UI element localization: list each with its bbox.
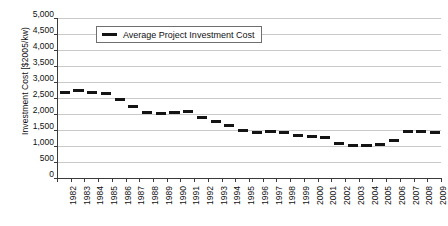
- y-tick-mark: [54, 50, 58, 51]
- x-tick-mark: [180, 178, 181, 182]
- y-tick-mark: [54, 18, 58, 19]
- data-marker: [142, 111, 152, 114]
- data-marker: [307, 135, 317, 138]
- x-tick-mark: [276, 178, 277, 182]
- x-tick-label: 1989: [164, 186, 174, 205]
- data-marker: [348, 144, 358, 147]
- x-tick-label: 2009: [438, 186, 448, 205]
- y-tick-mark: [54, 146, 58, 147]
- x-tick-mark: [57, 178, 58, 182]
- y-tick-label: 5,000: [33, 9, 54, 19]
- x-tick-label: 2005: [383, 186, 393, 205]
- data-marker: [293, 134, 303, 137]
- y-tick-label: 4,500: [33, 25, 54, 35]
- legend-line-swatch-icon: [102, 33, 117, 36]
- y-tick-label: 3,000: [33, 73, 54, 83]
- x-tick-label: 1991: [191, 186, 201, 205]
- x-tick-mark: [153, 178, 154, 182]
- y-tick-mark: [54, 162, 58, 163]
- x-tick-mark: [304, 178, 305, 182]
- gridline: [58, 130, 441, 131]
- x-tick-label: 1984: [95, 186, 105, 205]
- y-tick-mark: [54, 114, 58, 115]
- data-marker: [265, 130, 275, 133]
- data-marker: [224, 124, 234, 127]
- gridline: [58, 18, 441, 19]
- x-tick-label: 1993: [219, 186, 229, 205]
- x-tick-label: 1988: [150, 186, 160, 205]
- x-axis-tick-labels: 1982198319841985198619871988198919901991…: [57, 178, 441, 186]
- x-tick-label: 1996: [260, 186, 270, 205]
- x-tick-mark: [112, 178, 113, 182]
- y-tick-label: 1,500: [33, 121, 54, 131]
- gridline: [58, 50, 441, 51]
- x-tick-mark: [290, 178, 291, 182]
- data-marker: [87, 91, 97, 94]
- x-tick-label: 1985: [109, 186, 119, 205]
- x-tick-label: 1998: [287, 186, 297, 205]
- x-tick-label: 1983: [82, 186, 92, 205]
- x-tick-label: 1992: [205, 186, 215, 205]
- x-tick-label: 1987: [136, 186, 146, 205]
- data-marker: [430, 131, 440, 134]
- data-marker: [320, 136, 330, 139]
- data-marker: [375, 143, 385, 146]
- x-tick-mark: [263, 178, 264, 182]
- x-tick-label: 1999: [301, 186, 311, 205]
- data-marker: [389, 139, 399, 142]
- x-tick-mark: [194, 178, 195, 182]
- y-tick-mark: [54, 34, 58, 35]
- y-tick-mark: [54, 98, 58, 99]
- data-marker: [334, 142, 344, 145]
- x-tick-mark: [84, 178, 85, 182]
- x-tick-mark: [167, 178, 168, 182]
- data-marker: [279, 131, 289, 134]
- gridline: [58, 82, 441, 83]
- data-marker: [252, 131, 262, 134]
- x-tick-mark: [222, 178, 223, 182]
- x-tick-mark: [400, 178, 401, 182]
- x-tick-mark: [318, 178, 319, 182]
- y-tick-label: 1,000: [33, 137, 54, 147]
- data-marker: [416, 130, 426, 133]
- data-marker: [73, 89, 83, 92]
- y-tick-label: 2,500: [33, 89, 54, 99]
- x-tick-label: 2003: [356, 186, 366, 205]
- x-tick-label: 2008: [424, 186, 434, 205]
- x-tick-mark: [345, 178, 346, 182]
- data-marker: [60, 91, 70, 94]
- x-tick-label: 1995: [246, 186, 256, 205]
- x-tick-mark: [427, 178, 428, 182]
- gridline: [58, 66, 441, 67]
- gridline: [58, 146, 441, 147]
- data-marker: [361, 144, 371, 147]
- gridline: [58, 162, 441, 163]
- x-tick-mark: [139, 178, 140, 182]
- x-tick-mark: [126, 178, 127, 182]
- y-tick-label: 3,500: [33, 57, 54, 67]
- data-marker: [128, 105, 138, 108]
- x-tick-mark: [414, 178, 415, 182]
- x-tick-mark: [386, 178, 387, 182]
- x-tick-mark: [208, 178, 209, 182]
- y-tick-mark: [54, 82, 58, 83]
- x-tick-label: 2006: [397, 186, 407, 205]
- x-tick-mark: [441, 178, 442, 182]
- x-tick-mark: [331, 178, 332, 182]
- x-tick-label: 2000: [315, 186, 325, 205]
- x-tick-mark: [235, 178, 236, 182]
- y-tick-mark: [54, 130, 58, 131]
- x-tick-label: 1990: [178, 186, 188, 205]
- data-marker: [169, 111, 179, 114]
- data-marker: [211, 120, 221, 123]
- data-marker: [403, 130, 413, 133]
- y-tick-label: 2,000: [33, 105, 54, 115]
- data-marker: [238, 129, 248, 132]
- x-tick-label: 1986: [123, 186, 133, 205]
- data-marker: [156, 112, 166, 115]
- x-tick-mark: [372, 178, 373, 182]
- gridline: [58, 114, 441, 115]
- x-tick-label: 2002: [342, 186, 352, 205]
- y-axis-tick-labels: 05001,0001,5002,0002,5003,0003,5004,0004…: [14, 14, 54, 178]
